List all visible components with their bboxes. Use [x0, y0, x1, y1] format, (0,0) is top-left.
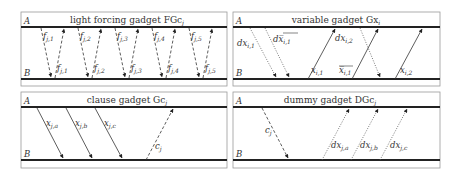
dummy-gadget-panel: A B dummy gadget DGcj cj dxj,a dxj,b dxj…: [233, 92, 440, 168]
arrow-x-bar-i1: [352, 29, 378, 79]
rail-b-label: B: [23, 149, 30, 159]
light-forcing-gadget-panel: A B light forcing gadget FGcj fj,1 fj,1 …: [21, 12, 227, 86]
arrow-c-j: [146, 109, 173, 160]
panel-title: light forcing gadget FGcj: [70, 15, 184, 27]
panel-title: clause gadget Gcj: [87, 95, 168, 107]
gadget-diagram: A B light forcing gadget FGcj fj,1 fj,1 …: [0, 0, 456, 179]
arrow-label: fj,5: [190, 31, 202, 43]
rail-a-label: A: [235, 96, 242, 106]
arrow-label: dxi,2: [335, 33, 353, 44]
arrow-label: cj: [265, 125, 272, 137]
arrow-label: dxj,c: [390, 140, 408, 152]
arrow-label: fj,4: [167, 63, 179, 75]
rail-a-label: A: [235, 16, 242, 26]
rail-b-label: B: [235, 149, 242, 159]
arrow-label: dx̅i,1: [273, 34, 291, 45]
rail-b-label: B: [23, 68, 30, 78]
arrow-label: fj,5: [204, 63, 216, 75]
rail-a-label: A: [23, 96, 30, 106]
rail-a-label: A: [23, 16, 30, 26]
arrow-x-ja: [37, 108, 63, 158]
arrow-label: x̅i,1: [339, 65, 351, 76]
panel-title: dummy gadget DGcj: [284, 95, 376, 107]
arrow-label: xi,1: [311, 65, 323, 76]
arrow-x-jc: [95, 108, 122, 158]
arrow-label: dxj,b: [360, 140, 378, 152]
arrow-label: fj,2: [93, 63, 105, 75]
rail-b-label: B: [235, 68, 242, 78]
arrow-label: fj,1: [42, 31, 54, 43]
arrow-dx-jb: [351, 109, 378, 160]
arrow-dx-i2: [360, 28, 380, 77]
arrow-x-jb: [66, 108, 92, 158]
arrow-label: fj,3: [130, 63, 142, 75]
arrow-label: fj,2: [79, 31, 91, 43]
arrow-label: fj,4: [153, 31, 165, 43]
arrow-dx-ja: [322, 109, 349, 160]
panel-title: variable gadget Gxi: [291, 15, 381, 26]
arrow-label: dxi,1: [237, 38, 255, 49]
arrow-label: fj,1: [56, 63, 68, 75]
arrow-dx-jc: [380, 109, 407, 160]
arrow-label: dxj,a: [331, 140, 349, 152]
clause-gadget-panel: A B clause gadget Gcj xj,a xj,b xj,c cj: [21, 92, 227, 168]
arrow-label: xi,2: [400, 65, 413, 76]
arrow-label: cj: [155, 141, 162, 153]
variable-gadget-panel: A B variable gadget Gxi dxi,1 dx̅i,1 xi,…: [233, 12, 440, 86]
arrow-label: fj,3: [116, 31, 128, 43]
